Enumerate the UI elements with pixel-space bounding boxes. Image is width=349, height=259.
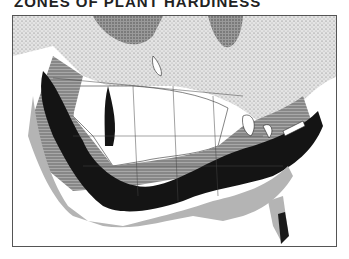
zone-map — [13, 16, 337, 247]
map-title: ZONES OF PLANT HARDINESS — [14, 0, 261, 10]
zone-subtropical — [278, 212, 289, 244]
map-frame — [12, 15, 337, 247]
